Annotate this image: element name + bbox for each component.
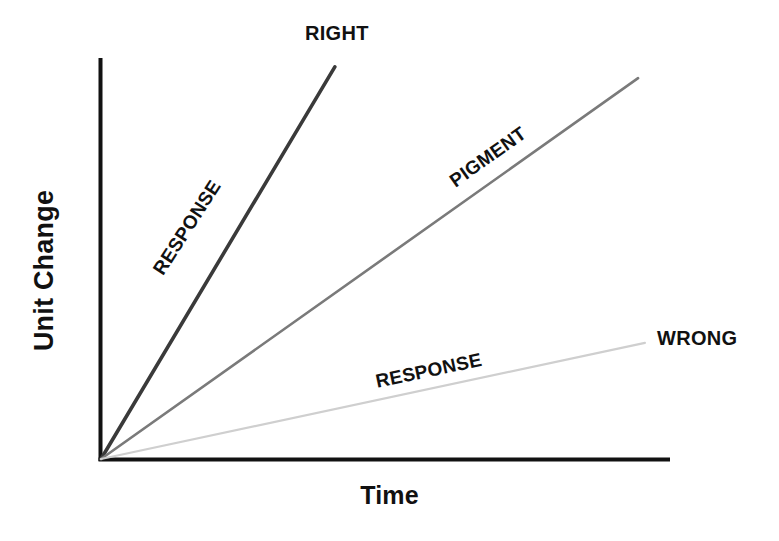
series-line-right	[101, 67, 335, 459]
y-axis-title-text: Unit Change	[30, 190, 61, 351]
series-endpoint-label-right: RIGHT	[305, 22, 369, 45]
x-axis-title: Time	[0, 481, 779, 510]
x-axis-title-text: Time	[360, 481, 419, 509]
series-endpoint-label-wrong: WRONG	[657, 327, 737, 350]
y-axis-title: Unit Change	[0, 0, 90, 541]
chart-figure: Unit Change Time RIGHT WRONG RESPONSE PI…	[0, 0, 779, 541]
chart-plot-area	[0, 0, 779, 541]
